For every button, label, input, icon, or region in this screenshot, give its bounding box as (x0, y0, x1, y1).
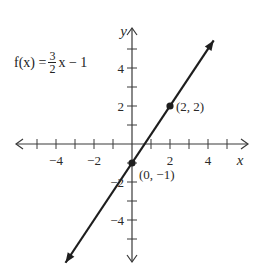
line-arrow-bottom-left (66, 252, 75, 263)
x-axis-label: x (236, 152, 244, 168)
x-tick-label: −4 (49, 153, 63, 168)
y-axis-label: y (118, 23, 127, 39)
x-tick-label: 4 (205, 153, 212, 168)
y-tick-label: 2 (118, 99, 125, 114)
line-arrow-top-right (205, 40, 214, 51)
y-tick-label: −4 (110, 213, 124, 228)
x-tick-label: 2 (167, 153, 174, 168)
data-point (128, 159, 135, 166)
data-point (166, 102, 173, 109)
point-label: (0, −1) (139, 167, 175, 182)
line-chart: −4−22442−2−4xy(2, 2)(0, −1) (0, 0, 260, 274)
function-line (66, 40, 214, 262)
x-tick-label: −2 (87, 153, 101, 168)
y-tick-label: 4 (118, 61, 125, 76)
point-label: (2, 2) (176, 99, 204, 114)
